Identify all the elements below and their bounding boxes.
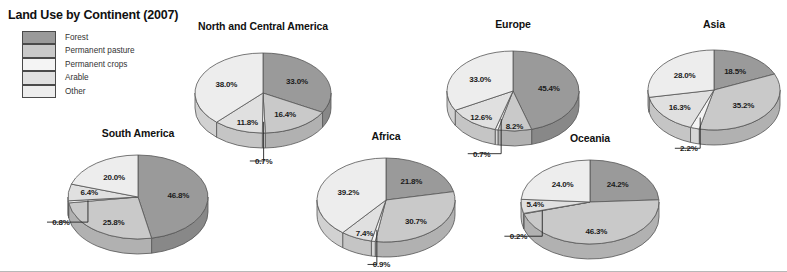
legend-swatch bbox=[22, 58, 56, 71]
pie-slice-permanent-pasture bbox=[263, 93, 323, 133]
slice-label-permanent-crops: 0.2% bbox=[510, 232, 527, 241]
legend-swatch bbox=[22, 31, 56, 44]
pie-slice-other bbox=[447, 51, 513, 110]
slice-label-permanent-crops: 2.2% bbox=[680, 144, 697, 153]
slice-label-permanent-pasture: 16.4% bbox=[274, 110, 296, 119]
legend-item: Other bbox=[22, 85, 135, 98]
pie-slice-forest bbox=[590, 160, 659, 202]
label-leader-line bbox=[250, 122, 264, 161]
label-leader-line bbox=[368, 230, 377, 265]
pie-side-permanent-crops bbox=[262, 133, 265, 148]
pie-title-north-and-central-america: North and Central America bbox=[198, 20, 328, 32]
legend-swatch bbox=[22, 44, 56, 57]
slice-label-forest: 45.4% bbox=[538, 83, 560, 92]
slice-label-arable: 6.4% bbox=[81, 187, 98, 196]
pie-slice-forest bbox=[263, 53, 331, 112]
legend-item: Permanent pasture bbox=[22, 44, 135, 57]
pie-side-permanent-pasture bbox=[699, 90, 780, 145]
pie-slice-forest bbox=[714, 50, 775, 90]
pie-title-oceania: Oceania bbox=[570, 132, 610, 144]
label-leader-line bbox=[504, 210, 542, 236]
pie-side-forest bbox=[323, 93, 331, 127]
slice-label-forest: 18.5% bbox=[724, 66, 746, 75]
slice-label-arable: 7.4% bbox=[356, 229, 373, 238]
page-title: Land Use by Continent (2007) bbox=[8, 8, 178, 22]
pie-slice-arable bbox=[455, 91, 513, 130]
label-leader-line bbox=[468, 119, 501, 154]
legend-label: Arable bbox=[65, 71, 89, 84]
slice-label-forest: 46.8% bbox=[168, 190, 190, 199]
slice-label-forest: 33.0% bbox=[286, 77, 308, 86]
pie-slice-permanent-pasture bbox=[498, 91, 532, 131]
label-leader-line bbox=[47, 201, 88, 223]
pie-side-forest bbox=[152, 197, 208, 253]
pie-side-forest bbox=[532, 91, 579, 144]
legend-label: Permanent crops bbox=[65, 58, 127, 71]
slice-label-permanent-crops: 0.7% bbox=[473, 149, 490, 158]
pie-slice-arable bbox=[343, 200, 386, 241]
pie-slice-other bbox=[648, 50, 714, 97]
slice-label-permanent-pasture: 8.2% bbox=[506, 121, 523, 130]
pie-slice-other bbox=[71, 155, 138, 197]
slice-label-permanent-crops: 0.7% bbox=[255, 156, 272, 165]
legend-item: Arable bbox=[22, 71, 135, 84]
pie-side-arable bbox=[343, 233, 372, 256]
pie-slice-permanent-pasture bbox=[699, 74, 780, 130]
pie-side-permanent-crops bbox=[495, 130, 498, 145]
slice-label-permanent-crops: 0.8% bbox=[52, 218, 69, 227]
slice-label-forest: 21.8% bbox=[400, 177, 422, 186]
pie-slice-other bbox=[195, 53, 263, 122]
pie-slice-forest bbox=[386, 158, 454, 200]
legend-swatch bbox=[22, 71, 56, 84]
legend-label: Forest bbox=[65, 31, 88, 44]
pie-slice-arable bbox=[649, 90, 714, 127]
legend-item: Forest bbox=[22, 31, 135, 44]
pie-side-other bbox=[195, 93, 217, 137]
pie-side-permanent-pasture bbox=[524, 202, 659, 259]
pie-side-permanent-pasture bbox=[498, 129, 532, 146]
slice-label-other: 39.2% bbox=[337, 187, 359, 196]
chart-legend: ForestPermanent pasturePermanent cropsAr… bbox=[22, 31, 135, 98]
pie-title-africa: Africa bbox=[371, 130, 400, 142]
slice-label-other: 24.0% bbox=[552, 180, 574, 189]
slice-label-permanent-pasture: 25.8% bbox=[103, 217, 125, 226]
pie-side-permanent-crops bbox=[691, 127, 700, 144]
pie-slice-permanent-pasture bbox=[524, 200, 659, 244]
pie-side-arable bbox=[217, 122, 263, 148]
pie-slice-arable bbox=[68, 184, 138, 201]
pie-side-arable bbox=[521, 202, 524, 228]
pie-side-other bbox=[317, 200, 343, 248]
pie-title-europe: Europe bbox=[495, 18, 531, 30]
pie-side-other bbox=[447, 91, 455, 125]
pie-slice-arable bbox=[521, 199, 590, 213]
slice-label-permanent-crops: 0.9% bbox=[373, 260, 390, 269]
pie-slice-permanent-crops bbox=[371, 200, 386, 241]
pie-slice-other bbox=[317, 158, 386, 233]
pie-slice-permanent-pasture bbox=[375, 192, 455, 242]
pie-slice-forest bbox=[138, 155, 208, 238]
pie-slice-permanent-crops bbox=[691, 90, 714, 129]
pie-slice-forest bbox=[513, 51, 579, 129]
pie-side-permanent-pasture bbox=[69, 203, 152, 254]
pie-title-asia: Asia bbox=[703, 18, 725, 30]
pie-slice-permanent-crops bbox=[524, 202, 590, 214]
legend-label: Other bbox=[65, 85, 85, 98]
pie-side-arable bbox=[455, 110, 495, 144]
slice-label-permanent-pasture: 30.7% bbox=[405, 217, 427, 226]
slice-label-permanent-pasture: 35.2% bbox=[733, 100, 755, 109]
pie-slice-permanent-crops bbox=[262, 93, 265, 133]
pie-slice-arable bbox=[217, 93, 263, 133]
slice-label-arable: 5.4% bbox=[526, 199, 543, 208]
label-leader-line bbox=[675, 118, 700, 149]
slice-label-arable: 12.6% bbox=[470, 113, 492, 122]
slice-label-forest: 24.2% bbox=[607, 180, 629, 189]
pie-side-permanent-crops bbox=[371, 241, 375, 256]
slice-label-other: 38.0% bbox=[215, 80, 237, 89]
slice-label-arable: 11.8% bbox=[237, 118, 258, 127]
pie-title-south-america: South America bbox=[102, 127, 174, 139]
slice-label-other: 28.0% bbox=[674, 71, 696, 80]
legend-item: Permanent crops bbox=[22, 58, 135, 71]
pie-side-permanent-pasture bbox=[375, 200, 455, 257]
pie-side-other bbox=[648, 90, 649, 112]
pie-slice-permanent-crops bbox=[68, 197, 138, 203]
